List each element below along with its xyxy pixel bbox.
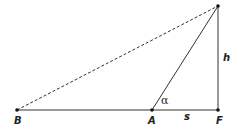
label-F: F	[216, 116, 223, 126]
label-B: B	[14, 116, 22, 126]
diagram-svg	[0, 0, 241, 131]
label-A: A	[148, 116, 156, 126]
segment-BT-dashed	[17, 6, 218, 110]
label-h: h	[223, 53, 230, 63]
point-A	[150, 108, 154, 112]
point-B	[15, 108, 19, 112]
point-F	[216, 108, 220, 112]
label-s: s	[184, 112, 190, 122]
label-alpha: α	[161, 96, 168, 106]
triangle-diagram: B A F s h α	[0, 0, 241, 131]
point-top	[216, 4, 220, 8]
